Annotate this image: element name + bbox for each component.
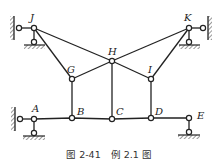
pin-A bbox=[31, 116, 36, 121]
pin-B bbox=[69, 115, 74, 120]
label-C: C bbox=[116, 106, 124, 117]
truss-diagram: J K G H I A B C D E 图 2-41 例 2.1 图 bbox=[0, 0, 218, 164]
pin-E-ground bbox=[186, 129, 191, 134]
pin-J bbox=[31, 25, 36, 30]
pin-D bbox=[148, 115, 153, 120]
pin-G bbox=[69, 76, 74, 81]
label-K: K bbox=[183, 12, 192, 23]
label-D: D bbox=[154, 106, 163, 117]
label-J: J bbox=[28, 12, 35, 23]
pin-A-ground bbox=[31, 130, 36, 135]
member-G-H bbox=[72, 61, 112, 79]
walls bbox=[10, 16, 212, 131]
pin-E bbox=[186, 115, 191, 120]
pin-J-ground bbox=[31, 39, 36, 44]
pin-I bbox=[148, 76, 153, 81]
pin-C bbox=[109, 116, 114, 121]
figure-caption: 图 2-41 例 2.1 图 bbox=[66, 149, 152, 160]
label-H: H bbox=[107, 46, 117, 57]
member-I-H bbox=[112, 61, 151, 79]
label-G: G bbox=[67, 64, 75, 75]
pin-K-wall bbox=[200, 25, 205, 30]
pin-A-wall bbox=[17, 116, 22, 121]
pin-J-wall bbox=[16, 25, 21, 30]
pin-K-ground bbox=[186, 39, 191, 44]
label-B: B bbox=[76, 106, 84, 117]
label-I: I bbox=[147, 64, 153, 75]
label-E: E bbox=[196, 110, 205, 121]
pin-H bbox=[109, 58, 114, 63]
label-A: A bbox=[31, 103, 39, 114]
pin-K bbox=[186, 25, 191, 30]
